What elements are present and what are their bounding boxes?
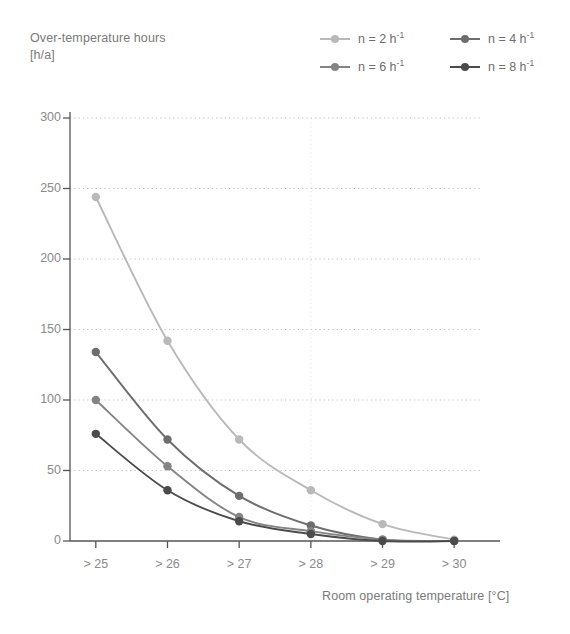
data-point (307, 530, 315, 538)
y-tick-label: 150 (17, 322, 61, 336)
data-point (163, 435, 171, 443)
data-point (378, 537, 386, 545)
data-series (92, 193, 459, 545)
data-point (163, 486, 171, 494)
gridlines (70, 118, 480, 471)
x-tick-label: > 25 (61, 557, 131, 571)
y-tick-label: 250 (17, 181, 61, 195)
x-tick-label: > 29 (348, 557, 418, 571)
y-tick-label: 200 (17, 251, 61, 265)
x-tick-label: > 26 (132, 557, 202, 571)
y-tick-label: 100 (17, 392, 61, 406)
series-line-0 (92, 193, 459, 544)
data-point (92, 348, 100, 356)
data-point (235, 517, 243, 525)
y-tick-label: 0 (17, 533, 61, 547)
y-tick-label: 300 (17, 110, 61, 124)
chart-container: Over-temperature hours[h/a] Room operati… (0, 0, 570, 634)
series-line-1 (92, 348, 459, 545)
axis-lines (70, 112, 500, 541)
x-tick-label: > 27 (204, 557, 274, 571)
data-point (92, 193, 100, 201)
data-point (92, 430, 100, 438)
plot-area (0, 0, 570, 634)
series-line-2 (92, 396, 459, 545)
axis-ticks (63, 118, 454, 548)
x-tick-label: > 30 (419, 557, 489, 571)
data-point (450, 537, 458, 545)
data-point (235, 435, 243, 443)
data-point (92, 396, 100, 404)
data-point (307, 486, 315, 494)
data-point (163, 462, 171, 470)
data-point (378, 520, 386, 528)
data-point (163, 337, 171, 345)
x-tick-label: > 28 (276, 557, 346, 571)
data-point (235, 492, 243, 500)
y-tick-label: 50 (17, 463, 61, 477)
